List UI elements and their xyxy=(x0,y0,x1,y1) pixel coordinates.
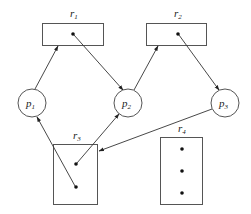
resource-r2: r2 xyxy=(147,7,207,46)
resource-r2-label: r2 xyxy=(174,7,182,21)
resource-r4: r4 xyxy=(161,122,203,205)
resource-r4-label: r4 xyxy=(178,122,186,136)
resource-r4-instance-dot-1 xyxy=(180,147,184,151)
resource-allocation-graph: r1 r2 r3 r4 p1 p2 p3 xyxy=(0,0,251,214)
resource-r4-instance-dot-3 xyxy=(180,191,184,195)
edge-p2-to-r2 xyxy=(134,46,158,90)
process-p1: p1 xyxy=(18,89,46,117)
resource-r1-label: r1 xyxy=(70,7,78,21)
resource-r3-box xyxy=(54,145,98,205)
edge-p1-to-r1 xyxy=(35,46,58,89)
resource-r3-label: r3 xyxy=(73,129,81,143)
resource-r4-instance-dot-2 xyxy=(180,169,184,173)
process-p2: p2 xyxy=(114,89,142,117)
resource-r3: r3 xyxy=(54,129,98,205)
process-p3: p3 xyxy=(211,89,239,117)
resource-r1: r1 xyxy=(43,7,104,46)
